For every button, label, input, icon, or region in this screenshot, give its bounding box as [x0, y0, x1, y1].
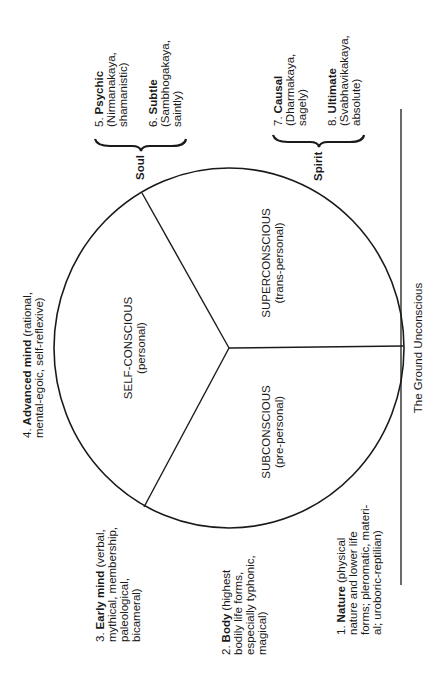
- spoke-upper: [142, 193, 229, 348]
- spoke-right: [229, 346, 403, 348]
- soul-brace: [95, 139, 186, 151]
- level-description-line: (Svabhavikakaya,: [338, 35, 350, 126]
- level-heading: 7.Causal: [272, 76, 284, 126]
- level-description-line: especially typhonic,: [244, 555, 256, 655]
- level-description-line: magical): [256, 611, 268, 655]
- level-5-psychic: 5.Psychic (Nirmanakaya, shamanistic): [93, 52, 129, 127]
- level-description-line: shamanistic): [117, 62, 129, 127]
- level-description-line: mental-egoic, self-reflexive): [33, 297, 45, 438]
- sector-title: SUPERCONSCIOUS: [260, 208, 272, 318]
- sector-self-conscious: SELF-CONSCIOUS (personal): [122, 297, 147, 400]
- level-description-line: (Sambhogakaya,: [159, 40, 171, 127]
- sector-title: SUBCONSCIOUS: [260, 385, 272, 479]
- level-6-subtle: 6.Subtle (Sambhogakaya, saintly): [147, 40, 183, 127]
- soul-label: Soul: [134, 155, 146, 180]
- level-description-line: al; uroboric-reptilian): [371, 530, 383, 635]
- spoke-lower: [144, 348, 229, 507]
- level-3-early-mind: 3.Early mind(verbal, mythical, membershi…: [94, 527, 142, 642]
- level-description-line: paleological,: [118, 578, 130, 642]
- level-1-nature: 1.Nature(physical nature and lower life …: [335, 504, 383, 635]
- level-description-line: bicameral): [130, 588, 142, 642]
- level-heading: 8.Ultimate: [326, 68, 338, 126]
- level-description-line: (Dharmakaya,: [284, 54, 296, 126]
- level-heading: 4.Advanced mind(rational,: [21, 292, 33, 438]
- level-heading: 3.Early mind(verbal,: [94, 529, 106, 642]
- level-description-line: saintly): [171, 90, 183, 127]
- level-description-line: sagely): [296, 89, 308, 126]
- level-heading: 6.Subtle: [147, 79, 159, 127]
- level-2-body: 2.Body(highest bodily life forms, especi…: [220, 555, 268, 655]
- sector-subtitle: (personal): [135, 322, 147, 374]
- level-description-line: absolute): [350, 79, 362, 126]
- level-heading: 1.Nature(physical: [335, 538, 347, 635]
- sector-superconscious: SUPERCONSCIOUS (trans-personal): [260, 208, 285, 318]
- spirit-label: Spirit: [312, 151, 324, 181]
- level-heading: 2.Body(highest: [220, 569, 232, 655]
- sector-subconscious: SUBCONSCIOUS (pre-personal): [260, 385, 285, 479]
- sector-title: SELF-CONSCIOUS: [122, 297, 134, 400]
- level-description-line: mythical, membership,: [106, 527, 118, 642]
- sector-subtitle: (trans-personal): [273, 222, 285, 303]
- level-8-ultimate: 8.Ultimate (Svabhavikakaya, absolute): [326, 35, 362, 126]
- level-heading: 5.Psychic: [93, 70, 105, 127]
- spirit-brace: [273, 135, 364, 147]
- level-4-advanced-mind: 4.Advanced mind(rational, mental-egoic, …: [21, 292, 45, 438]
- consciousness-diagram: The Ground Unconscious SELF-CONSCIOUS (p…: [0, 0, 427, 674]
- level-description-line: (Nirmanakaya,: [105, 52, 117, 127]
- level-7-causal: 7.Causal (Dharmakaya, sagely): [272, 54, 308, 126]
- level-description-line: nature and lower life: [347, 531, 359, 635]
- ground-label: The Ground Unconscious: [412, 283, 424, 414]
- level-description-line: bodily life forms,: [232, 572, 244, 655]
- sector-subtitle: (pre-personal): [273, 396, 285, 468]
- level-description-line: forms; pleromatic, materi-: [359, 504, 371, 635]
